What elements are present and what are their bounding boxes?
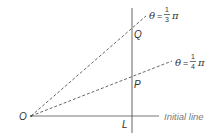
origin-label: O <box>19 111 27 122</box>
fraction-denominator: 4 <box>191 63 195 70</box>
theta-symbol: θ <box>175 57 181 68</box>
foot-label: L <box>122 119 128 130</box>
pi-symbol: π <box>171 10 179 21</box>
point-q-label: Q <box>134 29 142 40</box>
theta-symbol: θ <box>149 10 155 21</box>
fraction-denominator: 3 <box>165 16 169 23</box>
fraction-numerator: 1 <box>165 6 169 13</box>
polar-diagram: O L Q P Initial line θ = 1 3 π θ = 1 4 π <box>0 0 221 140</box>
origin-point <box>30 115 32 117</box>
angle-label-lower: θ = 1 4 π <box>175 53 205 70</box>
angle-label-upper: θ = 1 3 π <box>149 6 179 23</box>
point-p-label: P <box>134 79 141 90</box>
equals-sign: = <box>183 58 188 68</box>
pi-symbol: π <box>197 57 205 68</box>
fraction-numerator: 1 <box>191 53 195 60</box>
ray-lower <box>31 61 172 116</box>
ray-upper <box>31 16 146 116</box>
equals-sign: = <box>157 11 162 21</box>
initial-line-label: Initial line <box>164 111 204 122</box>
